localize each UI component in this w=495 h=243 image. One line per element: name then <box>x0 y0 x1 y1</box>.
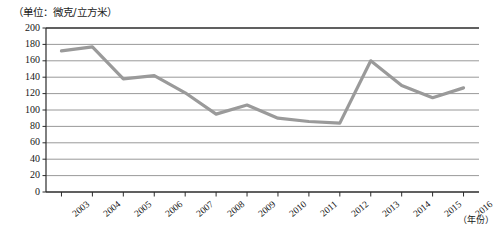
y-axis-tick-label: 120 <box>12 87 40 98</box>
y-axis-tick-label: 20 <box>12 169 40 180</box>
y-axis-tick-label: 160 <box>12 54 40 65</box>
line-chart: （单位：微克/立方米） 020406080100120140160180200 … <box>0 0 495 243</box>
y-axis-tick-label: 200 <box>12 22 40 33</box>
y-axis-tick-label: 60 <box>12 136 40 147</box>
data-series-line <box>61 47 463 123</box>
y-axis-tick-label: 180 <box>12 38 40 49</box>
y-axis-tick-label: 140 <box>12 71 40 82</box>
y-axis-tick-label: 80 <box>12 120 40 131</box>
y-axis-tick-label: 40 <box>12 153 40 164</box>
y-axis-tick-label: 0 <box>12 186 40 197</box>
y-axis-tick-label: 100 <box>12 104 40 115</box>
x-axis-unit-label: （年份） <box>458 213 494 226</box>
